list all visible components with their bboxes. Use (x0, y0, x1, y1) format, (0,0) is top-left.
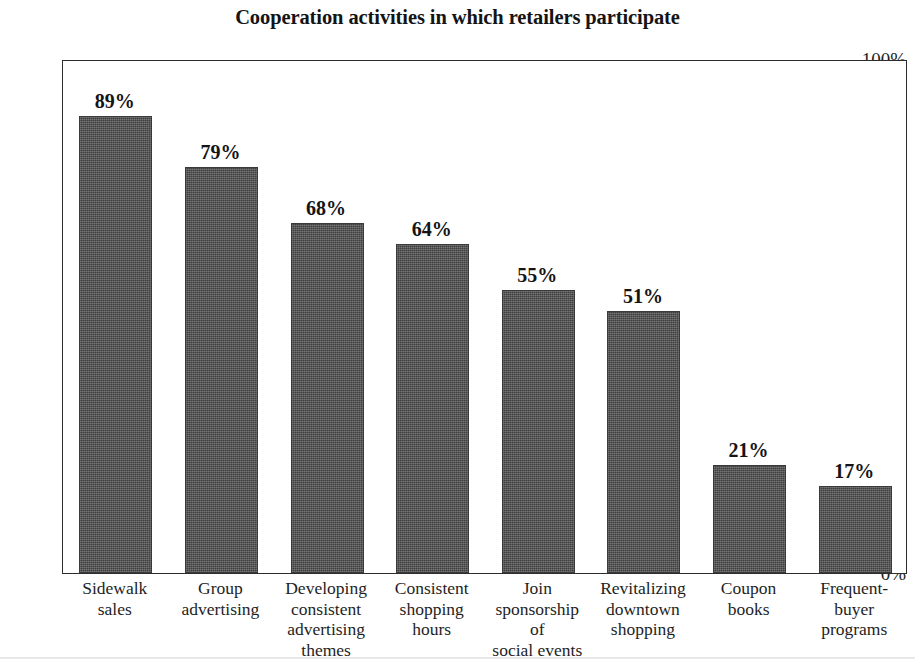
x-axis-category-line: Frequent- (801, 578, 907, 599)
x-axis-category-line: consistent (273, 599, 379, 620)
x-axis-category-line: of (485, 619, 591, 640)
x-axis-category-line: downtown (590, 599, 696, 620)
x-axis-category-line: buyer (801, 599, 907, 620)
x-axis-category-label: Groupadvertising (168, 578, 274, 619)
x-axis-category-line: Revitalizing (590, 578, 696, 599)
x-axis-category-label: Frequent-buyerprograms (801, 578, 907, 640)
x-axis-category-line: sales (62, 599, 168, 620)
x-axis-category-line: advertising (168, 599, 274, 620)
bar (607, 311, 680, 573)
bar-value-label: 64% (379, 219, 485, 239)
x-axis-category-line: Developing (273, 578, 379, 599)
x-axis-category-line: shopping (590, 619, 696, 640)
x-axis-category-label: Revitalizingdowntownshopping (590, 578, 696, 640)
x-axis-category-line: Consistent (379, 578, 485, 599)
x-axis-category-label: Sidewalksales (62, 578, 168, 619)
x-axis-category-line: advertising (273, 619, 379, 640)
x-axis-category-line: books (696, 599, 802, 620)
bar-value-label: 51% (590, 286, 696, 306)
bar (713, 465, 786, 573)
x-axis-category-line: Group (168, 578, 274, 599)
x-axis-category-label: Joinsponsorshipofsocial events (485, 578, 591, 659)
x-axis-category-line: sponsorship (485, 599, 591, 620)
bar (819, 486, 892, 573)
x-axis-category-line: Join (485, 578, 591, 599)
plot-area (62, 60, 907, 574)
bar-value-label: 21% (696, 440, 802, 460)
bar (396, 244, 469, 573)
x-axis-category-line: shopping (379, 599, 485, 620)
x-axis-category-line: Coupon (696, 578, 802, 599)
x-axis-category-line: programs (801, 619, 907, 640)
x-axis-category-line: Sidewalk (62, 578, 168, 599)
bar (79, 116, 152, 573)
x-axis-category-label: Developingconsistentadvertisingthemes (273, 578, 379, 659)
bar-value-label: 68% (273, 198, 379, 218)
x-axis-category-line: hours (379, 619, 485, 640)
bar-value-label: 79% (168, 142, 274, 162)
bar-chart: Cooperation activities in which retailer… (0, 0, 915, 659)
bar-value-label: 55% (485, 265, 591, 285)
page-title: Cooperation activities in which retailer… (0, 6, 915, 29)
bar (502, 290, 575, 573)
bar (291, 223, 364, 573)
bar-value-label: 89% (62, 91, 168, 111)
bar (185, 167, 258, 573)
x-axis-category-label: Consistentshoppinghours (379, 578, 485, 640)
bar-value-label: 17% (801, 461, 907, 481)
x-axis-category-label: Couponbooks (696, 578, 802, 619)
